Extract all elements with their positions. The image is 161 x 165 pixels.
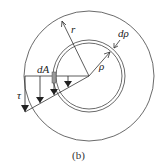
label-r: r bbox=[71, 23, 76, 35]
area-element-dA bbox=[52, 72, 56, 83]
torsion-cross-section-diagram: r dρ ρ dA τ (b) bbox=[0, 0, 161, 165]
caption: (b) bbox=[72, 149, 85, 162]
label-drho: dρ bbox=[118, 27, 129, 39]
label-rho: ρ bbox=[98, 60, 104, 72]
label-dA: dA bbox=[37, 63, 50, 75]
stress-arrowhead bbox=[21, 105, 29, 112]
label-tau: τ bbox=[17, 89, 22, 101]
stress-distribution-line bbox=[25, 76, 89, 112]
